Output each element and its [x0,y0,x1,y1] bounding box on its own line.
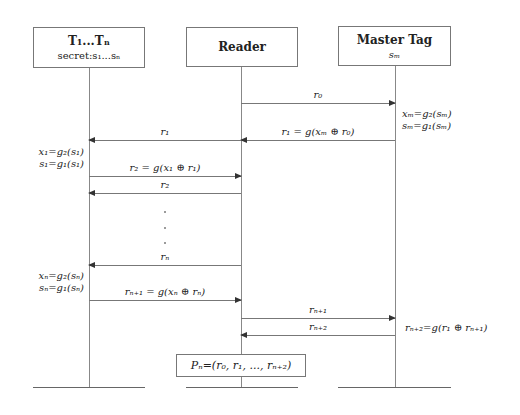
message-arrow-r2-tag [89,176,241,177]
message-label-r2: r₂ [89,179,241,190]
participant-master-tag: Master Tag sₘ [338,26,451,66]
message-arrow-rn [89,265,241,266]
participant-master-secret: sₘ [389,49,400,60]
note-line: s₁=g₁(s₁) [4,158,84,170]
participant-tags-secret: secret:s₁...sₙ [58,50,121,61]
baseline-master [338,387,451,388]
note-tag1-compute: x₁=g₂(s₁) s₁=g₁(s₁) [4,146,84,170]
participant-tags-title: T₁...Tₙ [68,34,110,48]
message-label-r1: r₁ [89,126,241,137]
note-master-compute: xₘ=g₂(sₘ) sₘ=g₁(sₘ) [402,108,452,132]
message-arrow-r2 [89,193,241,194]
note-line: xₙ=g₂(sₙ) [4,270,84,282]
ellipsis-dot [164,242,166,244]
message-label-rn1-tag: rₙ₊₁ = g(xₙ ⊕ rₙ) [89,286,241,297]
message-label-rn2: rₙ₊₂ [241,321,395,332]
note-master-final: rₙ₊₂=g(r₁ ⊕ rₙ₊₁) [405,322,487,334]
message-label-r1-master: r₁ = g(xₘ ⊕ r₀) [241,126,395,137]
message-arrow-rn1 [241,318,395,319]
note-tagn-compute: xₙ=g₂(sₙ) sₙ=g₁(sₙ) [4,270,84,294]
message-label-r2-tag: r₂ = g(x₁ ⊕ r₁) [89,162,241,173]
participant-reader: Reader [186,27,298,67]
note-line: xₘ=g₂(sₘ) [402,108,452,120]
message-label-rn: rₙ [89,251,241,262]
participant-master-title: Master Tag [357,33,432,47]
participant-reader-title: Reader [218,40,266,54]
message-label-rn1: rₙ₊₁ [241,304,395,315]
note-line: x₁=g₂(s₁) [4,146,84,158]
message-arrow-r1-master [241,140,395,141]
ellipsis-dot [164,227,166,229]
result-proof-box: Pₙ=(r₀, r₁, ..., rₙ₊₂) [176,354,306,377]
participant-tags: T₁...Tₙ secret:s₁...sₙ [33,27,145,68]
lifeline-tags [89,68,90,388]
message-arrow-r1 [89,140,241,141]
message-arrow-rn2 [241,335,395,336]
lifeline-reader [241,67,242,388]
ellipsis-dot [164,211,166,213]
baseline-tags [33,387,145,388]
lifeline-master [395,66,396,388]
message-label-r0: r₀ [241,89,395,100]
message-arrow-rn1-tag [89,300,241,301]
note-line: sₙ=g₁(sₙ) [4,282,84,294]
baseline-reader [186,387,298,388]
message-arrow-r0 [241,103,395,104]
note-line: sₘ=g₁(sₘ) [402,120,452,132]
